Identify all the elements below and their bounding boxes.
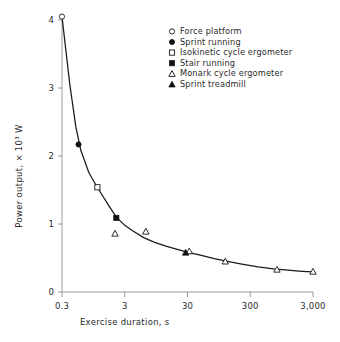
legend-label: Isokinetic cycle ergometer <box>180 47 293 57</box>
x-tick-label: 3 <box>122 301 128 311</box>
legend-marker-open-triangle <box>169 71 175 77</box>
legend-label: Monark cycle ergometer <box>180 68 284 78</box>
legend-label: Sprint running <box>180 37 241 47</box>
legend-label: Force platform <box>180 26 242 36</box>
data-point-open-triangle <box>112 230 118 236</box>
y-tick-label: 0 <box>48 287 54 297</box>
legend-label: Stair running <box>180 58 235 68</box>
legend-marker-open-square <box>169 50 174 55</box>
x-tick-label: 3,000 <box>300 301 325 311</box>
y-tick-label: 2 <box>48 151 54 161</box>
chart-canvas: 012340.33303003,000Exercise duration, sP… <box>0 0 340 342</box>
legend-marker-open-circle <box>169 29 174 34</box>
x-tick-label: 30 <box>182 301 193 311</box>
legend-marker-filled-circle <box>169 39 174 44</box>
legend-marker-filled-triangle <box>169 81 175 87</box>
x-tick-label: 300 <box>242 301 259 311</box>
y-axis-title: Power output, × 10³ W <box>14 124 24 228</box>
data-point-filled-circle <box>76 142 81 147</box>
x-tick-label: 0.3 <box>55 301 69 311</box>
data-point-filled-square <box>114 215 119 220</box>
data-point-open-square <box>95 185 100 190</box>
legend-label: Sprint treadmill <box>180 79 246 89</box>
y-tick-label: 4 <box>48 15 54 25</box>
y-tick-label: 1 <box>48 219 54 229</box>
x-axis-title: Exercise duration, s <box>80 317 170 327</box>
legend-marker-filled-square <box>169 61 174 66</box>
data-point-open-triangle <box>143 228 149 234</box>
power-duration-chart: 012340.33303003,000Exercise duration, sP… <box>0 0 340 342</box>
data-point-open-circle <box>59 14 64 19</box>
y-tick-label: 3 <box>48 83 54 93</box>
